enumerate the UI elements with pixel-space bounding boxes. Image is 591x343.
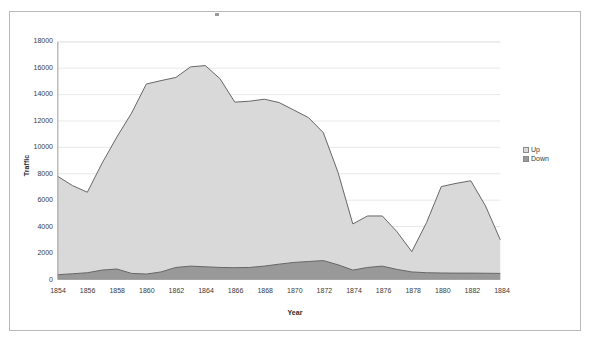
y-tick-label: 4000: [10, 223, 53, 230]
x-tick-label: 1880: [428, 287, 458, 294]
y-tick-label: 12000: [10, 117, 53, 124]
x-axis-title: Year: [10, 309, 580, 316]
y-tick-label: 6000: [10, 196, 53, 203]
chart-container: 0200040006000800010000120001400016000180…: [9, 11, 581, 331]
x-tick-label: 1862: [161, 287, 191, 294]
x-tick-label: 1860: [132, 287, 162, 294]
plot-areas: [58, 66, 500, 280]
x-tick-label: 1856: [73, 287, 103, 294]
y-tick-label: 18000: [10, 37, 53, 44]
legend-label: Up: [531, 146, 540, 153]
x-tick-label: 1872: [309, 287, 339, 294]
legend-label: Down: [531, 155, 549, 162]
y-axis-title: Traffic: [23, 136, 30, 196]
x-tick-label: 1854: [43, 287, 73, 294]
legend-item[interactable]: Up: [523, 146, 549, 153]
area-chart-plot: [10, 12, 580, 330]
x-tick-label: 1868: [250, 287, 280, 294]
x-tick-label: 1874: [339, 287, 369, 294]
x-tick-label: 1870: [280, 287, 310, 294]
x-tick-label: 1878: [398, 287, 428, 294]
x-tick-label: 1866: [221, 287, 251, 294]
y-tick-label: 10000: [10, 143, 53, 150]
x-tick-label: 1882: [457, 287, 487, 294]
x-tick-label: 1858: [102, 287, 132, 294]
y-tick-label: 14000: [10, 90, 53, 97]
y-tick-label: 16000: [10, 64, 53, 71]
x-tick-label: 1876: [369, 287, 399, 294]
x-tick-label: 1884: [487, 287, 517, 294]
chart-legend: UpDown: [523, 146, 549, 164]
legend-item[interactable]: Down: [523, 155, 549, 162]
y-tick-label: 2000: [10, 249, 53, 256]
y-tick-label: 8000: [10, 170, 53, 177]
legend-swatch-icon: [523, 147, 529, 153]
x-tick-label: 1864: [191, 287, 221, 294]
y-tick-label: 0: [10, 276, 53, 283]
legend-swatch-icon: [523, 156, 529, 162]
